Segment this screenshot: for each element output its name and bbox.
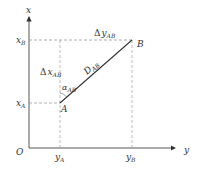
yB-label: yB — [125, 152, 136, 163]
segment-AB — [60, 40, 132, 103]
xB-label: xB — [16, 35, 26, 46]
point-B-label: B — [136, 39, 144, 49]
horizontal-axis-label: y — [183, 145, 190, 155]
vertical-axis-label: x — [26, 5, 31, 15]
azimuth-label: αAB — [62, 83, 77, 93]
origin-label: O — [16, 147, 24, 157]
point-A-label: A — [60, 104, 68, 114]
azimuth-arc — [60, 93, 67, 97]
yA-label: yA — [54, 152, 65, 163]
xA-label: xA — [16, 98, 26, 109]
delta-y-label: ΔyAB — [94, 28, 116, 39]
coordinate-diagram: x y O xB xA yA yB A B ΔyAB ΔxAB DAB αAB — [0, 0, 197, 172]
delta-x-label: ΔxAB — [40, 67, 62, 78]
